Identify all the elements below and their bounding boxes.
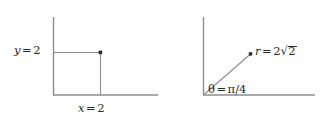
x-variable-symbol: x [78,101,85,115]
polar-radius-label: r=2√2 [255,46,296,58]
cartesian-x-value-label: x=2 [78,103,104,115]
y-variable-symbol: y [14,43,21,57]
angle-denominator: 4 [239,82,246,96]
theta-variable-symbol: θ [208,82,215,96]
cartesian-point-marker [99,51,103,55]
polar-point-marker [249,52,252,55]
cartesian-coordinates-diagram [53,17,158,96]
radicand-value: 2 [288,46,296,58]
theta-equals-sign: = [215,82,228,96]
x-equals-sign: = [85,101,98,115]
y-equals-sign: = [21,43,34,57]
r-variable-symbol: r [255,44,261,58]
x-value: 2 [97,101,104,115]
pi-symbol: π [228,82,236,96]
r-coefficient: 2 [273,44,280,58]
radical-sign-icon: √ [280,44,287,58]
square-root-expression: √2 [280,46,296,58]
y-value: 2 [33,43,40,57]
polar-angle-label: θ=π/4 [208,84,246,96]
figure-canvas: y=2 x=2 r=2√2 θ=π/4 [0,0,323,126]
cartesian-y-value-label: y=2 [14,45,40,57]
figure-vector-layer [0,0,323,126]
r-equals-sign: = [261,44,274,58]
